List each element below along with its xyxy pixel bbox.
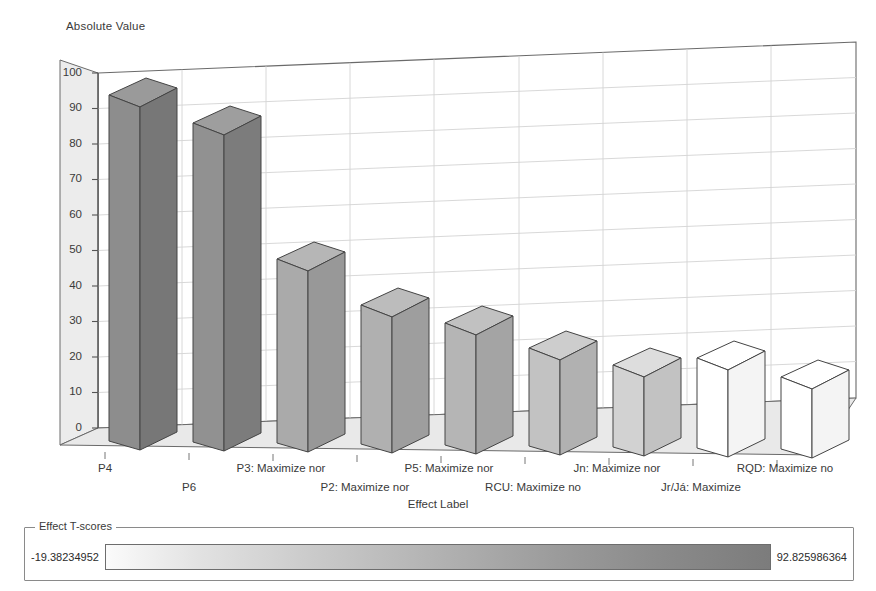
x-tick-jn: Jn: Maximize nor	[574, 462, 661, 474]
y-tick-80: 80	[46, 137, 82, 149]
bar-rqd-maximize-no[interactable]	[781, 360, 849, 458]
y-tick-40: 40	[46, 279, 82, 291]
x-tick-p2: P2: Maximize nor	[321, 481, 410, 493]
bar-jr-ja-maximize[interactable]	[697, 341, 765, 457]
y-tick-70: 70	[46, 172, 82, 184]
y-tick-20: 20	[46, 350, 82, 362]
x-tick-rcu: RCU: Maximize no	[485, 481, 581, 493]
y-tick-30: 30	[46, 314, 82, 326]
bar-jn-maximize-nor[interactable]	[613, 348, 681, 456]
x-tick-jr-ja: Jr/Já: Maximize	[661, 481, 741, 493]
bar-p5-maximize-nor[interactable]	[445, 306, 513, 454]
y-tick-100: 100	[46, 66, 82, 78]
x-tick-rqd: RQD: Maximize no	[737, 462, 834, 474]
bar-p2-maximize-nor[interactable]	[361, 288, 429, 453]
bar-rcu-maximize-no[interactable]	[529, 331, 597, 455]
y-tick-90: 90	[46, 101, 82, 113]
legend-gradient-bar	[105, 544, 771, 570]
legend-min-value: -19.38234952	[25, 551, 105, 563]
x-tick-p5: P5: Maximize nor	[405, 462, 494, 474]
x-tick-p6: P6	[182, 481, 196, 493]
x-axis-title: Effect Label	[0, 498, 876, 510]
bar-p3-maximize-nor[interactable]	[277, 242, 345, 452]
bar-chart: Absolute Value	[0, 0, 876, 591]
legend-max-value: 92.825986364	[771, 551, 853, 563]
legend-effect-tscores: Effect T-scores -19.38234952 92.82598636…	[24, 527, 854, 581]
bar-p4[interactable]	[109, 78, 177, 450]
y-tick-50: 50	[46, 243, 82, 255]
legend-title: Effect T-scores	[35, 520, 116, 532]
legend-scale-row: -19.38234952 92.825986364	[25, 542, 853, 572]
y-tick-60: 60	[46, 208, 82, 220]
plot-area	[0, 0, 876, 530]
y-tick-0: 0	[46, 421, 82, 433]
bar-p6[interactable]	[193, 106, 261, 451]
y-tick-10: 10	[46, 385, 82, 397]
x-tick-p4: P4	[98, 462, 112, 474]
x-tick-p3: P3: Maximize nor	[237, 462, 326, 474]
